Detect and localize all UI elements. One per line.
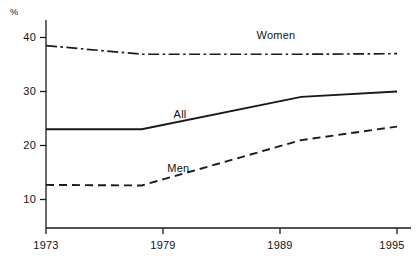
series-line-all: [46, 92, 397, 130]
series-annotation-women: Women: [257, 29, 296, 41]
series-annotation-men: Men: [167, 162, 189, 174]
line-chart: % 40 30 20 10 1973 1979 1989 1995 Women …: [0, 0, 420, 265]
chart-plot-area: [0, 0, 420, 265]
y-tick-label-20: 20: [6, 139, 36, 151]
y-tick-label-40: 40: [6, 31, 36, 43]
series-annotation-all: All: [174, 108, 187, 120]
y-axis-unit-label: %: [10, 7, 18, 17]
y-tick-label-30: 30: [6, 85, 36, 97]
x-tick-label-1989: 1989: [255, 239, 305, 251]
x-tick-label-1995: 1995: [367, 239, 417, 251]
x-tick-label-1979: 1979: [138, 239, 188, 251]
y-tick-label-10: 10: [6, 193, 36, 205]
series-line-women: [46, 46, 397, 55]
x-tick-label-1973: 1973: [21, 239, 71, 251]
series-line-men: [46, 127, 397, 186]
